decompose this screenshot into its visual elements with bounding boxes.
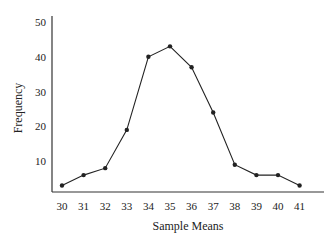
- data-point-marker: [103, 166, 107, 170]
- x-tick-label: 36: [186, 200, 198, 212]
- data-point-marker: [254, 173, 258, 177]
- y-tick-label: 40: [35, 51, 47, 63]
- y-tick-label: 20: [35, 120, 47, 132]
- data-point-marker: [146, 55, 150, 59]
- axes: [52, 16, 324, 192]
- y-axis-ticks: 1020304050: [35, 16, 47, 167]
- data-point-marker: [297, 183, 301, 187]
- y-tick-label: 30: [35, 86, 47, 98]
- data-point-marker: [189, 65, 193, 69]
- data-point-marker: [211, 110, 215, 114]
- series-line: [62, 46, 300, 185]
- x-axis-ticks: 303132333435363738394041: [57, 200, 306, 212]
- x-tick-label: 41: [294, 200, 305, 212]
- data-point-marker: [168, 44, 172, 48]
- data-point-marker: [60, 183, 64, 187]
- x-tick-label: 34: [143, 200, 155, 212]
- y-tick-label: 50: [35, 16, 47, 28]
- x-tick-label: 40: [273, 200, 285, 212]
- x-tick-label: 31: [78, 200, 89, 212]
- y-tick-label: 10: [35, 155, 47, 167]
- frequency-line-chart: 1020304050 303132333435363738394041 Samp…: [0, 0, 334, 244]
- data-series: [60, 44, 302, 188]
- data-point-marker: [81, 173, 85, 177]
- data-point-marker: [276, 173, 280, 177]
- x-tick-label: 33: [121, 200, 133, 212]
- x-tick-label: 39: [251, 200, 263, 212]
- x-axis-label: Sample Means: [153, 219, 224, 233]
- y-axis-label: Frequency: [11, 83, 25, 134]
- x-tick-label: 30: [57, 200, 69, 212]
- x-tick-label: 32: [100, 200, 111, 212]
- x-tick-label: 37: [208, 200, 220, 212]
- x-tick-label: 35: [165, 200, 177, 212]
- data-point-marker: [233, 162, 237, 166]
- data-point-marker: [125, 128, 129, 132]
- x-tick-label: 38: [229, 200, 241, 212]
